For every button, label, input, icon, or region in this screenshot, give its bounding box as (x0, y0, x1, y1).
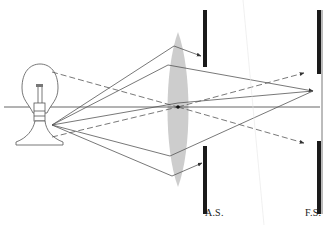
aperture-stop-label: A.S. (205, 207, 224, 218)
optical-diagram (0, 0, 331, 225)
aperture-stop (203, 10, 207, 214)
field-stop-label: F.S. (305, 207, 321, 218)
scan-artifact (243, 0, 264, 225)
principal-point (176, 105, 180, 109)
lens (168, 32, 189, 187)
light-bulb-icon (16, 64, 63, 145)
field-stop (317, 10, 322, 214)
